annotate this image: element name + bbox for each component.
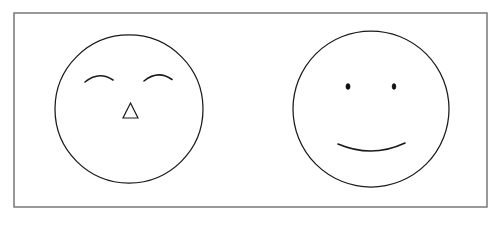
left-face-group xyxy=(55,35,203,183)
left-face-outline xyxy=(55,35,203,183)
right-face-right-dot-eye-icon xyxy=(392,84,396,90)
left-face-left-closed-eye-icon xyxy=(85,76,113,82)
faces-illustration: Two drawn faces xyxy=(0,0,500,228)
left-face-right-closed-eye-icon xyxy=(144,75,172,81)
right-face-outline xyxy=(293,31,449,187)
right-face-group xyxy=(293,31,449,187)
left-face-triangle-nose-icon xyxy=(123,103,138,118)
border-frame xyxy=(14,13,487,207)
right-face-left-dot-eye-icon xyxy=(346,84,350,90)
drawing-canvas: Two drawn faces xyxy=(0,0,500,228)
right-face-smile-mouth-icon xyxy=(338,143,405,151)
